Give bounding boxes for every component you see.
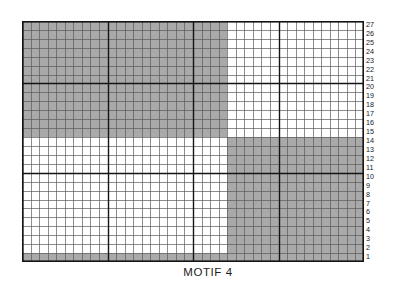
motif-chart-page: 2726252423222120191817161514131211109876… (0, 0, 416, 293)
row-number-label: 1 (366, 253, 390, 262)
chart-caption: MOTIF 4 (0, 266, 416, 278)
pattern-grid-canvas (22, 21, 364, 262)
row-number-axis: 2726252423222120191817161514131211109876… (366, 21, 392, 262)
pattern-grid (22, 21, 364, 262)
